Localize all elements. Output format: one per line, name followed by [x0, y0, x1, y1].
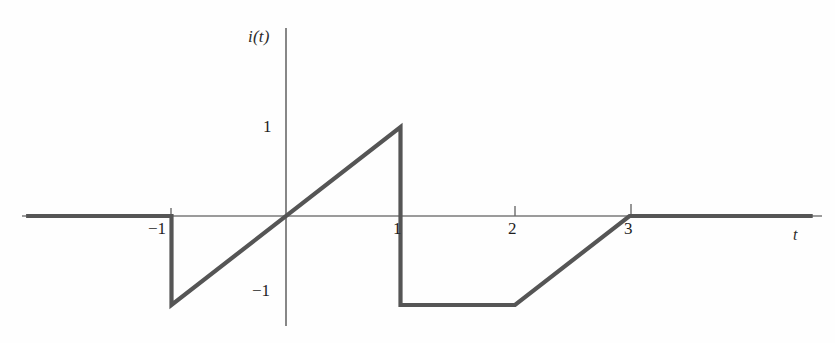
y-tick-label-1: 1: [263, 117, 272, 137]
x-tick-label-3: 3: [624, 219, 633, 239]
waveform-figure: i(t) t −1 1 2 3 1 −1: [0, 0, 835, 343]
y-tick-label-minus1: −1: [252, 281, 270, 301]
y-axis-label: i(t): [248, 27, 270, 47]
x-tick-label-2: 2: [508, 219, 517, 239]
x-tick-label-minus1: −1: [148, 219, 166, 239]
x-axis-label: t: [793, 226, 798, 244]
x-tick-label-1: 1: [393, 219, 402, 239]
waveform-chart: [0, 0, 835, 343]
